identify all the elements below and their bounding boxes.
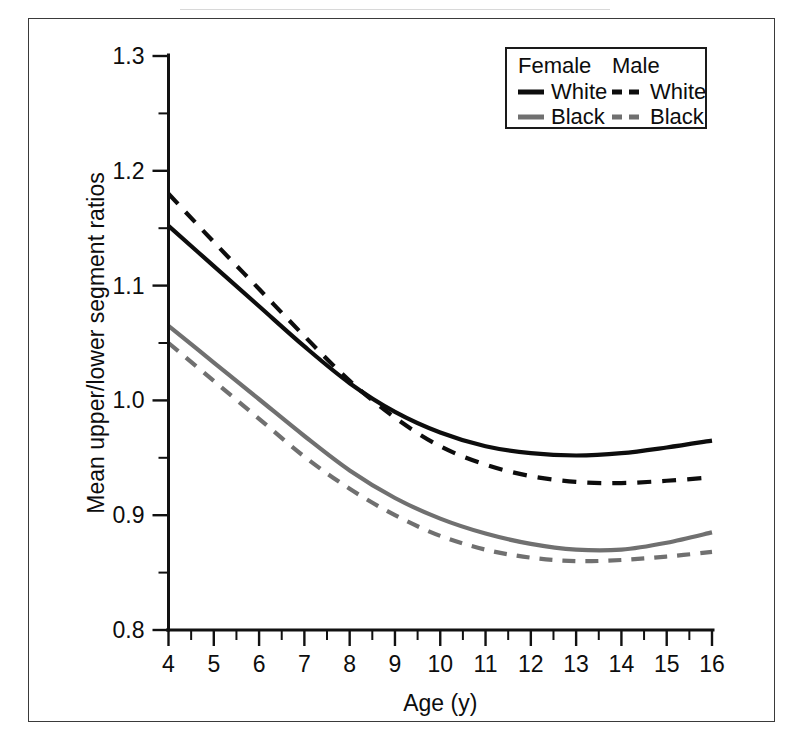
series-line-female-white [169, 226, 713, 456]
x-axis-tick-label: 9 [389, 651, 402, 677]
line-chart: 0.80.91.01.11.21.345678910111213141516Ag… [0, 0, 796, 736]
x-axis-tick-label: 13 [563, 651, 589, 677]
y-axis-tick-label: 1.1 [113, 273, 145, 299]
y-axis-tick-label: 1.2 [113, 158, 145, 184]
series-line-male-white [169, 194, 713, 483]
x-axis-tick-label: 12 [518, 651, 544, 677]
figure-root: 0.80.91.01.11.21.345678910111213141516Ag… [0, 0, 796, 736]
legend-label-female-black: Black [551, 104, 606, 129]
x-axis-tick-label: 14 [609, 651, 635, 677]
x-axis-tick-label: 16 [699, 651, 725, 677]
legend-header-female: Female [518, 53, 591, 78]
legend-label-male-black: Black [650, 104, 705, 129]
ticks-layer [153, 56, 713, 646]
y-axis-tick-label: 0.9 [113, 502, 145, 528]
x-axis-tick-label: 8 [343, 651, 356, 677]
y-axis-tick-label: 0.8 [113, 617, 145, 643]
legend-label-female-white: White [551, 79, 607, 104]
x-axis-title: Age (y) [403, 690, 477, 716]
x-axis-tick-label: 10 [427, 651, 453, 677]
axis-labels-layer: 0.80.91.01.11.21.345678910111213141516Ag… [83, 43, 725, 716]
x-axis-tick-label: 11 [474, 651, 498, 677]
legend-header-male: Male [612, 53, 660, 78]
series-line-female-black [169, 326, 713, 551]
x-axis-tick-label: 5 [207, 651, 220, 677]
x-axis-tick-label: 6 [253, 651, 266, 677]
x-axis-tick-label: 7 [298, 651, 311, 677]
y-axis-tick-label: 1.0 [113, 387, 145, 413]
axes-layer [168, 55, 714, 630]
x-axis-tick-label: 15 [654, 651, 680, 677]
legend-label-male-white: White [650, 79, 706, 104]
y-axis-tick-label: 1.3 [113, 43, 145, 69]
chart-legend: FemaleMaleWhiteWhiteBlackBlack [506, 48, 706, 129]
x-axis-tick-label: 4 [162, 651, 175, 677]
series-layer [169, 194, 713, 561]
y-axis-title: Mean upper/lower segment ratios [83, 172, 109, 513]
